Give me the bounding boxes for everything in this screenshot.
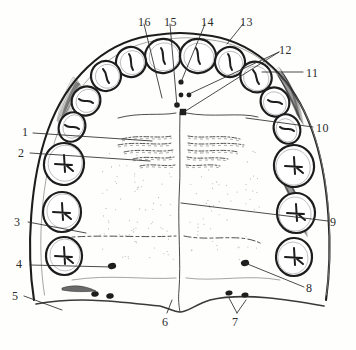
mucosa-stipple bbox=[162, 228, 163, 229]
palatal-ruga-right-2 bbox=[188, 143, 244, 145]
mucosa-stipple bbox=[245, 184, 246, 185]
mucosa-stipple bbox=[135, 191, 136, 192]
teeth-right-group bbox=[178, 37, 318, 277]
mucosa-stipple bbox=[216, 245, 217, 246]
mucosa-stipple bbox=[218, 184, 219, 185]
mucosa-stipple bbox=[256, 247, 257, 248]
label-6: 6 bbox=[162, 316, 169, 328]
label-8: 8 bbox=[306, 282, 313, 294]
mucosa-stipple bbox=[125, 235, 126, 236]
mucosa-stipple bbox=[134, 175, 135, 176]
mucosa-stipple bbox=[212, 241, 213, 242]
mucosa-stipple bbox=[129, 220, 130, 221]
mucosa-stipple bbox=[119, 234, 120, 235]
palatal-ruga-right-3 bbox=[188, 150, 238, 152]
mucosa-stipple bbox=[137, 187, 138, 188]
mucosa-stipple bbox=[212, 183, 213, 184]
mucosa-stipple bbox=[198, 227, 199, 228]
mucosa-stipple bbox=[237, 192, 238, 193]
mucosa-stipple bbox=[171, 235, 172, 236]
label-12: 12 bbox=[279, 44, 292, 56]
mucosa-stipple bbox=[133, 228, 134, 229]
mucosa-stipple bbox=[259, 206, 260, 207]
mucosa-stipple bbox=[170, 176, 171, 177]
mucosa-stipple bbox=[120, 199, 121, 200]
mucosa-stipple bbox=[212, 188, 213, 189]
mucosa-stipple bbox=[191, 249, 192, 250]
label-16: 16 bbox=[138, 16, 151, 28]
mucosa-stipple bbox=[246, 236, 247, 237]
rugae-band-upper-right bbox=[186, 113, 258, 117]
label-4: 4 bbox=[16, 258, 23, 270]
palatal-ruga-right-1-echo bbox=[188, 138, 240, 141]
mucosa-stipple bbox=[161, 184, 162, 185]
anatomy-line-drawing bbox=[0, 0, 356, 350]
mucosa-stipple bbox=[167, 251, 168, 252]
label-7: 7 bbox=[232, 316, 239, 328]
label-3: 3 bbox=[14, 216, 21, 228]
label-15: 15 bbox=[164, 16, 177, 28]
mucosa-stipple bbox=[152, 221, 153, 222]
mucosa-stipple bbox=[171, 157, 172, 158]
mucosa-stipple bbox=[209, 207, 210, 208]
mucosa-stipple bbox=[137, 222, 138, 223]
mucosa-stipple bbox=[168, 239, 169, 240]
mucosa-stipple bbox=[159, 153, 160, 154]
mucosa-stipple bbox=[145, 209, 146, 210]
mucosa-stipple bbox=[105, 208, 106, 209]
mucosa-stipple bbox=[254, 209, 255, 210]
palatal-ruga-right-5-echo bbox=[186, 167, 220, 168]
mucosa-stipple bbox=[149, 153, 150, 154]
mucosa-stipple bbox=[102, 249, 103, 250]
palatal-ruga-left-3 bbox=[124, 150, 173, 152]
median-raphe-group bbox=[179, 112, 180, 312]
mucosa-stipple bbox=[210, 228, 211, 229]
label-2: 2 bbox=[18, 147, 25, 159]
palatal-vault-shade-l bbox=[72, 277, 176, 280]
palate-anatomy-figure: 12345678910111213141516 bbox=[0, 0, 356, 350]
label-10: 10 bbox=[316, 122, 329, 134]
palatine-gland-streak bbox=[62, 286, 96, 292]
mucosa-stipple bbox=[160, 205, 161, 206]
mucosa-stipple bbox=[253, 151, 254, 152]
mucosa-stipple bbox=[254, 152, 255, 153]
palatal-ruga-left-2-echo bbox=[118, 145, 172, 147]
palatine-foramen-dot bbox=[179, 93, 184, 98]
mucosa-stipple bbox=[134, 181, 135, 182]
mucosa-stipple bbox=[213, 205, 214, 206]
mucosa-stipple bbox=[103, 215, 104, 216]
mucosa-stipple bbox=[170, 156, 171, 157]
label-1: 1 bbox=[22, 126, 29, 138]
palatal-ruga-right-5 bbox=[186, 165, 220, 166]
mucosa-stipple bbox=[131, 230, 132, 231]
mucosa-stipple bbox=[197, 231, 198, 232]
mucosa-stipple bbox=[151, 223, 152, 224]
mucosa-stipple bbox=[239, 259, 240, 260]
mucosa-stipple bbox=[104, 233, 105, 234]
mucosa-stipple bbox=[249, 199, 250, 200]
mucosa-stipple bbox=[158, 197, 159, 198]
mucosa-stipple bbox=[173, 259, 174, 260]
mucosa-stipple bbox=[256, 192, 257, 193]
mucosa-stipple bbox=[209, 205, 210, 206]
mucosa-stipple bbox=[220, 160, 221, 161]
palatine-raphe bbox=[179, 112, 180, 312]
mucosa-stipple bbox=[136, 155, 137, 156]
palatal-ruga-right-4-echo bbox=[187, 159, 228, 161]
posterior-border-right bbox=[184, 236, 262, 244]
mucosa-stipple bbox=[119, 165, 120, 166]
mucosa-stipple bbox=[197, 223, 198, 224]
mucosa-stipple bbox=[245, 189, 246, 190]
mucosa-stipple bbox=[247, 161, 248, 162]
mucosa-stipple bbox=[122, 257, 123, 258]
palatal-ruga-right-4 bbox=[187, 157, 228, 159]
mucosa-stipple bbox=[219, 214, 220, 215]
palatal-ruga-left-3-echo bbox=[124, 152, 173, 154]
mucosa-stipple bbox=[128, 258, 129, 259]
leader-line-7 bbox=[229, 298, 246, 313]
mucosa-stipple bbox=[252, 191, 253, 192]
mucosa-stipple bbox=[148, 228, 149, 229]
mucosa-stipple bbox=[203, 218, 204, 219]
mucosa-stipple bbox=[237, 247, 238, 248]
mucosa-stipple bbox=[170, 215, 171, 216]
